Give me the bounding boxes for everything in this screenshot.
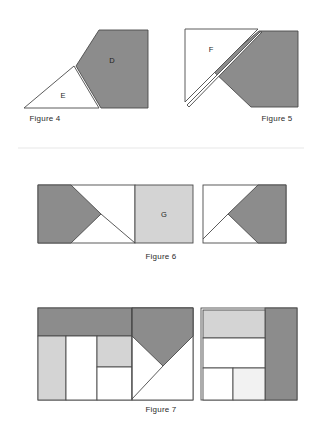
- figure7-left-top-shaded-band: [38, 308, 132, 336]
- figures-illustration: D E F G: [0, 0, 322, 428]
- figure-7-group: [38, 308, 297, 400]
- figure-6-group: G: [38, 185, 286, 243]
- figure6-label-g: G: [161, 210, 167, 219]
- figure7-right-shaded-band: [265, 308, 297, 400]
- figure7-right-white-middle-panel: [203, 338, 265, 368]
- figure-5-group: F: [185, 29, 298, 107]
- figure-6-caption: Figure 6: [0, 252, 322, 261]
- figure-4-group: D E: [24, 30, 148, 108]
- figure-5-caption: Figure 5: [116, 114, 322, 123]
- figure7-right-light-top-panel: [203, 310, 265, 338]
- figure7-right-white-bottom-left-panel: [203, 368, 233, 400]
- figure4-label-d: D: [109, 56, 115, 65]
- figure7-left-white-panel: [66, 336, 97, 400]
- figure-sheet: D E F G: [0, 0, 322, 428]
- figure5-label-f: F: [209, 45, 214, 54]
- figure7-left-light-small-panel: [97, 336, 132, 367]
- figure-7-caption: Figure 7: [0, 405, 322, 414]
- figure7-left-light-panel: [38, 336, 66, 400]
- figure7-right-light-bottom-right-panel: [233, 368, 265, 400]
- figure4-label-e: E: [60, 91, 65, 100]
- figure7-left-white-small-panel: [97, 367, 132, 400]
